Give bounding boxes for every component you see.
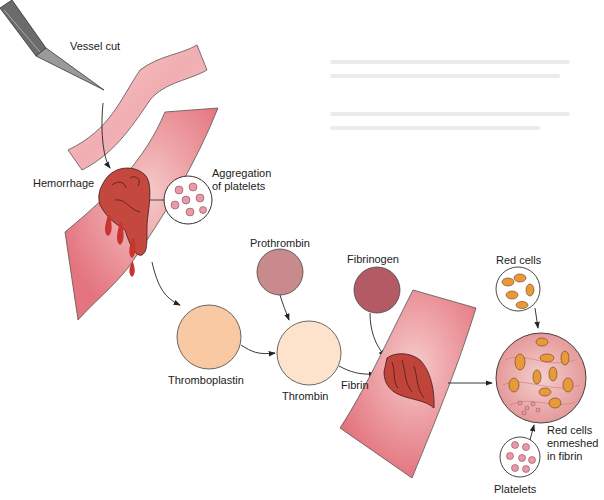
- label-enmeshed: Red cells enmeshed in fibrin: [547, 424, 598, 463]
- fibrinogen-circle: [354, 267, 400, 313]
- label-fibrin: Fibrin: [341, 379, 369, 392]
- label-aggregation: Aggregation of platelets: [212, 167, 271, 193]
- background-text-line: [330, 112, 570, 116]
- background-text-line: [330, 74, 560, 78]
- label-prothrombin: Prothrombin: [250, 237, 310, 250]
- enmeshed-circle: [496, 333, 586, 423]
- platelets-circle: [500, 437, 540, 477]
- red-cells-circle: [496, 267, 540, 311]
- label-thrombin: Thrombin: [282, 390, 328, 403]
- background-text-line: [330, 60, 570, 64]
- thrombin-circle: [277, 321, 341, 385]
- label-platelets: Platelets: [494, 483, 536, 496]
- label-hemorrhage: Hemorrhage: [33, 177, 94, 190]
- label-fibrinogen: Fibrinogen: [347, 253, 399, 266]
- thromboplastin-circle: [177, 305, 241, 369]
- label-vessel-cut: Vessel cut: [70, 40, 120, 53]
- label-red-cells: Red cells: [496, 254, 541, 267]
- prothrombin-circle: [257, 249, 303, 295]
- platelet-aggregation-circle: [164, 176, 212, 224]
- label-thromboplastin: Thromboplastin: [168, 374, 244, 387]
- background-text-line: [330, 126, 540, 130]
